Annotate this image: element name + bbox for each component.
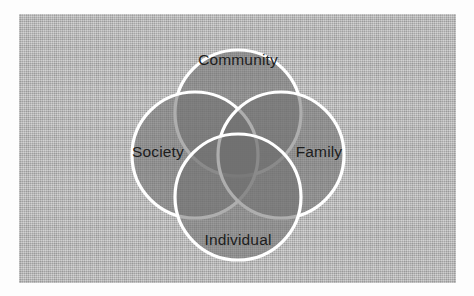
venn-label-society: Society	[132, 144, 184, 160]
diagram-canvas: Community Society Family Individual	[19, 14, 456, 283]
venn-label-family: Family	[296, 144, 343, 160]
venn-label-individual: Individual	[205, 232, 272, 248]
venn-label-community: Community	[198, 52, 278, 68]
venn-diagram-root: Community Society Family Individual	[0, 0, 474, 296]
